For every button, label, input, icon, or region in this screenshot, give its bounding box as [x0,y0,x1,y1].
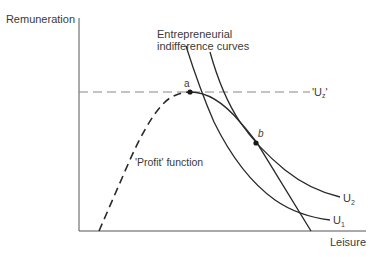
point-b-marker [253,140,258,145]
indifference-curve-u2 [210,52,340,197]
uz-label: 'Uz' [312,86,328,99]
u1-label: U1 [333,214,345,228]
entrepreneurial-diagram: Remuneration Leisure 'Uz' U1 U2 Entrepre… [0,0,382,257]
profit-function-label: 'Profit' function [135,156,203,168]
u2-label: U2 [343,192,355,206]
x-axis-label: Leisure [330,236,366,248]
curves-label-line1: Entrepreneurial [157,28,232,40]
point-b-label: b [258,128,264,139]
curves-label-line2: indifference curves [157,40,250,52]
y-axis-label: Remuneration [6,13,75,25]
point-a-marker [187,89,192,94]
point-a-label: a [184,78,190,89]
